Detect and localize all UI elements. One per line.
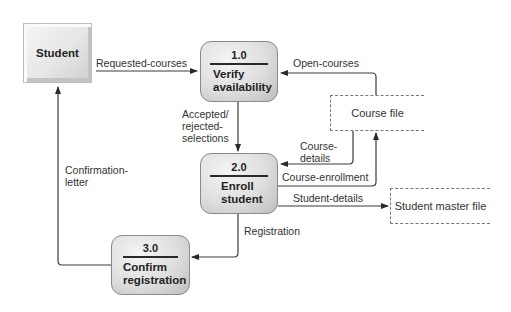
entity-student[interactable]: Student bbox=[23, 23, 92, 83]
process-name-line2: registration bbox=[123, 274, 186, 287]
entity-student-label: Student bbox=[36, 47, 79, 59]
flow-registration bbox=[192, 214, 238, 257]
process-verify-availability[interactable]: 1.0 Verify availability bbox=[200, 41, 278, 102]
label-line: Confirmation- bbox=[65, 164, 128, 176]
label-requested-courses: Requested-courses bbox=[96, 57, 187, 69]
process-name-line1: Verify bbox=[213, 68, 272, 81]
data-flow-diagram: Student 1.0 Verify availability 2.0 Enro… bbox=[0, 0, 511, 312]
label-course-details: Course- details bbox=[300, 140, 337, 164]
process-divider bbox=[210, 175, 268, 177]
process-divider bbox=[210, 63, 268, 65]
label-student-details: Student-details bbox=[293, 192, 363, 204]
process-confirm-registration[interactable]: 3.0 Confirm registration bbox=[111, 235, 190, 295]
process-number: 2.0 bbox=[201, 161, 277, 173]
datastore-course-file[interactable]: Course file bbox=[330, 95, 424, 131]
flow-open-courses bbox=[281, 73, 376, 95]
datastore-student-master-file-label: Student master file bbox=[395, 200, 487, 212]
label-line: selections bbox=[182, 132, 229, 144]
label-line: rejected- bbox=[182, 120, 229, 132]
label-open-courses: Open-courses bbox=[293, 57, 359, 69]
process-name: Confirm registration bbox=[123, 261, 186, 287]
process-enroll-student[interactable]: 2.0 Enroll student bbox=[200, 153, 278, 214]
label-line: letter bbox=[65, 176, 128, 188]
datastore-course-file-label: Course file bbox=[351, 107, 404, 119]
process-name: Enroll student bbox=[221, 180, 263, 206]
label-line: details bbox=[300, 152, 337, 164]
process-number: 1.0 bbox=[201, 49, 277, 61]
process-divider bbox=[123, 256, 178, 258]
label-accepted-rejected-selections: Accepted/ rejected- selections bbox=[182, 108, 229, 144]
datastore-student-master-file[interactable]: Student master file bbox=[390, 188, 490, 224]
label-confirmation-letter: Confirmation- letter bbox=[65, 164, 128, 188]
process-name-line2: student bbox=[221, 193, 263, 206]
label-course-enrollment: Course-enrollment bbox=[282, 171, 368, 183]
process-name-line1: Enroll bbox=[221, 180, 263, 193]
process-number: 3.0 bbox=[112, 242, 189, 254]
process-name-line2: availability bbox=[213, 81, 272, 94]
label-line: Accepted/ bbox=[182, 108, 229, 120]
process-name: Verify availability bbox=[213, 68, 272, 94]
label-line: Course- bbox=[300, 140, 337, 152]
label-registration: Registration bbox=[244, 225, 300, 237]
process-name-line1: Confirm bbox=[123, 261, 186, 274]
